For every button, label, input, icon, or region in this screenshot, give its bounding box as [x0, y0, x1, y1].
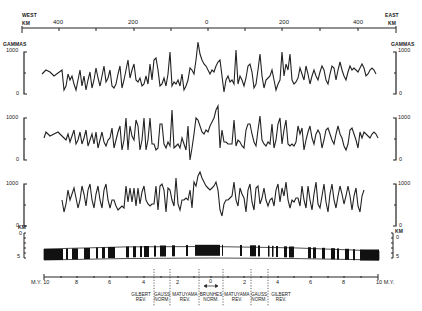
- km-tick-200-east: 200: [279, 19, 289, 25]
- age-tick-8-right: 8: [342, 280, 345, 286]
- west-label: WEST: [22, 13, 37, 18]
- epoch-brunhes-norm: BRUNHES NORM.: [198, 292, 224, 303]
- p1-min-right: 0: [399, 91, 402, 97]
- p3-max-left: 1000: [6, 181, 18, 187]
- depth-scale-left: [24, 233, 26, 258]
- km-unit-left: KM: [22, 21, 30, 26]
- anomaly-profile-1: [42, 42, 376, 92]
- km-unit-right: KM: [388, 21, 396, 26]
- age-tick-8-left: 8: [75, 280, 78, 286]
- brunhes-arrow: [204, 285, 218, 288]
- top-km-axis: [22, 26, 396, 33]
- age-label-left: M.Y. 10: [31, 280, 49, 286]
- left-gamma-scales: [24, 52, 27, 226]
- model-anomaly-profile: [62, 172, 364, 216]
- p2-max-right: 1000: [398, 115, 410, 121]
- epoch-gilbert-rev-right: GILBERT REV.: [268, 292, 294, 303]
- km-tick-0: 0: [205, 19, 208, 25]
- km-tick-200-west: 200: [128, 19, 138, 25]
- depth-scale-right: [391, 233, 393, 258]
- age-tick-6-left: 6: [108, 280, 111, 286]
- p1-max-right: 1000: [398, 48, 410, 54]
- age-tick-2-right: 2: [243, 280, 246, 286]
- p3-max-right: 1000: [398, 181, 410, 187]
- figure-canvas: [0, 0, 422, 311]
- p2-min-right: 0: [399, 157, 402, 163]
- depth-0-right: 0: [396, 235, 399, 241]
- p2-max-left: 1000: [6, 115, 18, 121]
- epoch-matuyama-rev-left: MATUYAMA REV.: [172, 292, 198, 303]
- age-tick-2-left: 2: [176, 280, 179, 286]
- anomaly-profile-2: [44, 106, 378, 160]
- age-tick-6-right: 6: [309, 280, 312, 286]
- km-tick-400-west: 400: [53, 19, 63, 25]
- depth-5-right: 5: [396, 254, 399, 260]
- depth-5-left: 5: [17, 254, 20, 260]
- east-label: EAST: [385, 13, 399, 18]
- p1-max-left: 1000: [6, 48, 18, 54]
- p2-min-left: 0: [16, 157, 19, 163]
- depth-0-left: 0: [19, 231, 22, 237]
- magnetic-block-model: [44, 245, 379, 261]
- p1-min-left: 0: [16, 91, 19, 97]
- age-label-right: 10 M.Y.: [376, 280, 394, 286]
- age-tick-4-right: 4: [276, 280, 279, 286]
- right-gamma-scales: [393, 52, 396, 226]
- age-tick-0: 0: [209, 279, 212, 285]
- age-tick-4-left: 4: [142, 280, 145, 286]
- km-tick-400-east: 400: [353, 19, 363, 25]
